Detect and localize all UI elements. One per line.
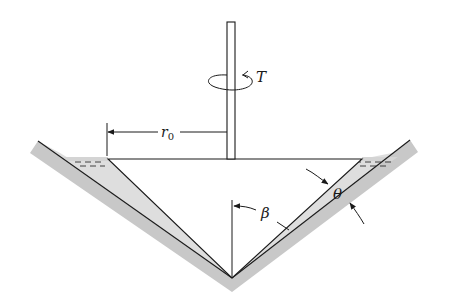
gap-angle-label: θ: [333, 185, 342, 203]
torque-label: T: [256, 68, 267, 86]
cone-angle-label: β: [260, 204, 270, 222]
cone-viscometer-diagram: T r0 β θ: [0, 0, 449, 308]
shaft: [227, 22, 235, 159]
radius-label: r0: [161, 124, 174, 142]
